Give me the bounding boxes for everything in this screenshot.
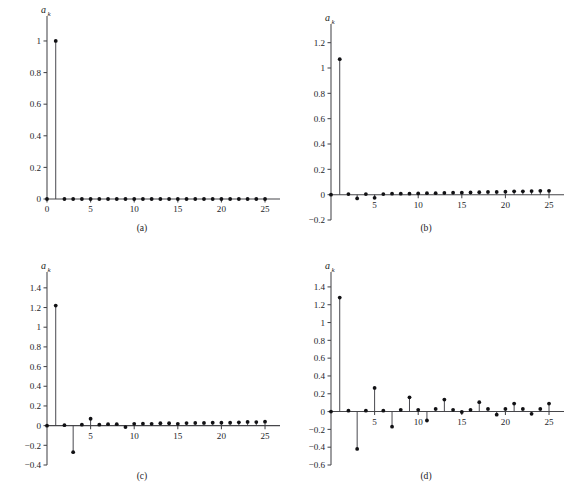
stem-marker (495, 190, 499, 194)
stem-marker (469, 408, 473, 412)
stem-marker (390, 425, 394, 429)
stem-marker (538, 407, 542, 411)
y-tick-label: 0.8 (30, 342, 42, 352)
stem-marker (45, 424, 49, 428)
y-tick-label: 0.4 (30, 381, 42, 391)
panel-caption-b: (b) (284, 222, 568, 233)
stem-marker (54, 39, 58, 43)
y-tick-label: 1 (36, 36, 41, 46)
stem-marker (132, 197, 136, 201)
stem-marker (504, 190, 508, 194)
stem-marker (45, 197, 49, 201)
x-tick-label: 20 (501, 417, 511, 427)
x-tick-label: 5 (372, 200, 377, 210)
stem-marker (106, 422, 110, 426)
x-tick-label: 15 (457, 200, 467, 210)
stem-marker (176, 422, 180, 426)
stem-marker (460, 410, 464, 414)
stem-marker (521, 407, 525, 411)
stem-marker (228, 421, 232, 425)
y-tick-label: 0.6 (314, 114, 326, 124)
x-tick-label: 10 (130, 204, 140, 214)
stem-marker (547, 402, 551, 406)
stem-marker (158, 197, 162, 201)
x-tick-label: 10 (414, 200, 424, 210)
stem-marker (399, 192, 403, 196)
stem-marker (495, 413, 499, 417)
stem-marker (329, 410, 333, 414)
stem-marker (97, 197, 101, 201)
y-tick-label: −0.2 (25, 441, 42, 451)
x-tick-label: 25 (260, 204, 270, 214)
x-tick-label: 10 (414, 417, 424, 427)
stem-marker (373, 386, 377, 390)
stem-marker (89, 417, 93, 421)
stem-marker (408, 192, 412, 196)
panel-caption-d: (d) (284, 470, 568, 481)
stem-plot-d: −0.6−0.4−0.200.20.40.60.811.21.451015202… (284, 250, 568, 499)
stem-marker (512, 402, 516, 406)
stem-marker (115, 422, 119, 426)
stem-marker (434, 191, 438, 195)
y-tick-label: 0 (36, 421, 41, 431)
stem-marker (71, 450, 75, 454)
stem-marker (390, 192, 394, 196)
stem-marker (185, 421, 189, 425)
y-axis-label: a (325, 12, 330, 23)
y-tick-label: 0.4 (314, 139, 326, 149)
y-tick-label: −0.6 (309, 460, 326, 470)
y-tick-label: 0.6 (30, 362, 42, 372)
y-tick-label: −0.2 (309, 425, 326, 435)
stem-marker (124, 425, 128, 429)
stem-marker (141, 197, 145, 201)
y-axis-label: a (41, 260, 46, 271)
stem-marker (347, 192, 351, 196)
y-tick-label: 1.4 (30, 283, 42, 293)
panel-a: 00.20.40.60.810510152025akk (a) (0, 0, 284, 249)
stem-marker (237, 197, 241, 201)
stem-plot-b: −0.200.20.40.60.811.2510152025akk (284, 0, 568, 249)
stem-marker (381, 409, 385, 413)
stem-marker (399, 408, 403, 412)
stem-marker (442, 398, 446, 402)
panel-d: −0.6−0.4−0.200.20.40.60.811.21.451015202… (284, 250, 568, 499)
y-tick-label: 1.2 (314, 300, 326, 310)
stem-marker (193, 197, 197, 201)
stem-marker (211, 421, 215, 425)
y-tick-label: 1.2 (30, 303, 42, 313)
y-tick-label: 0.8 (314, 336, 326, 346)
x-tick-label: 0 (45, 204, 50, 214)
stem-marker (530, 412, 534, 416)
stem-marker (477, 400, 481, 404)
y-tick-label: 0.2 (30, 163, 42, 173)
stem-marker (338, 296, 342, 300)
y-axis-subscript: k (332, 18, 336, 26)
y-axis-label: a (325, 260, 330, 271)
stem-marker (469, 190, 473, 194)
stem-marker (150, 422, 154, 426)
stem-marker (228, 197, 232, 201)
panel-caption-a: (a) (0, 222, 284, 233)
stem-marker (158, 421, 162, 425)
stem-marker (254, 420, 258, 424)
x-tick-label: 10 (130, 431, 140, 441)
stem-marker (416, 192, 420, 196)
stem-marker (80, 423, 84, 427)
x-tick-label: 25 (544, 417, 554, 427)
y-tick-label: 0 (36, 194, 41, 204)
stem-marker (237, 420, 241, 424)
y-tick-label: 0 (320, 407, 325, 417)
stem-marker (124, 197, 128, 201)
y-tick-label: 0 (320, 190, 325, 200)
x-tick-label: 5 (88, 431, 93, 441)
stem-marker (538, 189, 542, 193)
stem-marker (167, 421, 171, 425)
stem-marker (329, 193, 333, 197)
stem-marker (486, 407, 490, 411)
stem-marker (451, 191, 455, 195)
panel-b: −0.200.20.40.60.811.2510152025akk (b) (284, 0, 568, 249)
stem-marker (254, 197, 258, 201)
x-tick-label: 20 (217, 431, 227, 441)
y-tick-label: 0.2 (314, 165, 326, 175)
stem-marker (63, 197, 67, 201)
